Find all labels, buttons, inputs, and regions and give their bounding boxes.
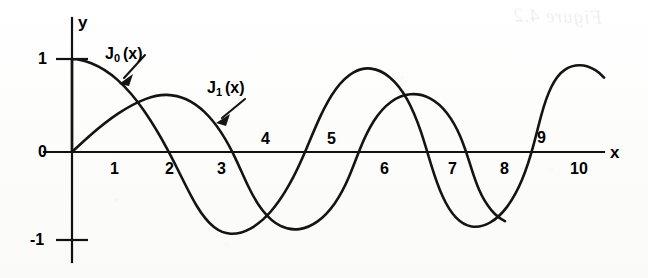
curve-label-j1-order: 1: [216, 86, 222, 98]
y-tick-label-minus-1: -1: [30, 232, 44, 248]
x-tick-label-4: 4: [261, 131, 270, 147]
curve-label-j0-arg: (x): [123, 45, 143, 62]
x-tick-label-6: 6: [380, 161, 389, 177]
curve-j1: [72, 94, 505, 229]
x-tick-label-9: 9: [537, 130, 546, 146]
bessel-function-figure: Figure 4.2 y x 1 0 -1 1 2 3 4 5 6: [0, 0, 648, 278]
y-tick-label-1: 1: [38, 51, 47, 67]
curve-label-j1: J1(x): [207, 80, 245, 96]
x-tick-label-5: 5: [327, 131, 336, 147]
x-tick-label-7: 7: [448, 161, 457, 177]
y-axis-label: y: [78, 14, 87, 31]
curve-label-j0-order: 0: [114, 52, 120, 64]
y-tick-label-0: 0: [38, 144, 47, 160]
x-tick-label-8: 8: [500, 161, 509, 177]
plot-canvas: [0, 0, 648, 278]
x-tick-label-10: 10: [570, 161, 588, 177]
curve-j0: [72, 59, 604, 234]
x-axis-label: x: [610, 144, 619, 161]
curve-label-j1-name: J: [207, 79, 216, 96]
x-tick-label-1: 1: [110, 161, 119, 177]
x-tick-label-2: 2: [165, 161, 174, 177]
curve-label-j1-arg: (x): [225, 79, 245, 96]
curve-label-j0: J0(x): [105, 46, 143, 62]
x-tick-label-3: 3: [217, 161, 226, 177]
j1-annotation-arrow: [216, 99, 245, 126]
curve-label-j0-name: J: [105, 45, 114, 62]
